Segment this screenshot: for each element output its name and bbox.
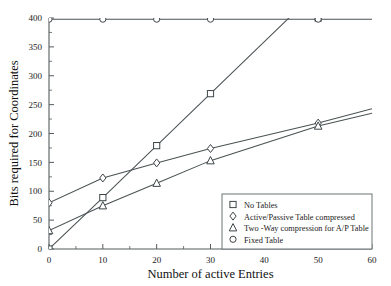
x-tick-label-50: 50: [314, 255, 324, 265]
chart-container: 0501001502002503003504000102030405060Num…: [0, 0, 391, 286]
series-4: [46, 16, 372, 22]
data-point-2-3: [154, 159, 160, 167]
y-tick-label-250: 250: [29, 100, 43, 110]
y-tick-label-400: 400: [29, 13, 43, 23]
legend-label-1: No Tables: [244, 201, 278, 210]
data-point-1-2: [100, 195, 106, 201]
data-point-1-1: [46, 246, 52, 252]
data-point-4-3: [154, 16, 160, 22]
data-point-4-2: [100, 16, 106, 22]
y-tick-label-150: 150: [29, 158, 43, 168]
legend-label-3: Two -Way compression for A/P Table: [244, 224, 369, 233]
x-axis-title: Number of active Entries: [148, 267, 274, 281]
legend-marker-square: [230, 201, 236, 207]
x-tick-label-30: 30: [206, 255, 216, 265]
x-tick-label-0: 0: [47, 255, 52, 265]
data-point-3-3: [153, 179, 161, 186]
legend-label-2: Active/Passive Table compressed: [244, 213, 356, 222]
data-point-4-5: [315, 16, 321, 22]
data-point-1-4: [207, 91, 213, 97]
legend-item-3[interactable]: Two -Way compression for A/P Table: [229, 224, 369, 234]
y-tick-label-50: 50: [33, 215, 43, 225]
y-tick-label-200: 200: [29, 129, 43, 139]
y-tick-label-350: 350: [29, 42, 43, 52]
data-point-1-3: [154, 143, 160, 149]
y-tick-label-100: 100: [29, 186, 43, 196]
line-chart: 0501001502002503003504000102030405060Num…: [0, 0, 391, 286]
x-tick-label-10: 10: [98, 255, 108, 265]
series-2: [46, 109, 372, 207]
data-point-4-4: [207, 16, 213, 22]
data-point-2-2: [100, 174, 106, 182]
data-point-4-1: [46, 16, 52, 22]
legend-item-2[interactable]: Active/Passive Table compressed: [230, 212, 356, 222]
data-point-2-4: [207, 145, 213, 153]
y-axis-title: Bits required for Coordinates: [7, 60, 21, 206]
x-tick-label-20: 20: [152, 255, 162, 265]
x-tick-label-60: 60: [368, 255, 378, 265]
legend-label-4: Fixed Table: [244, 236, 283, 245]
y-tick-label-300: 300: [29, 71, 43, 81]
data-point-3-1: [45, 226, 53, 233]
data-point-3-2: [99, 202, 107, 209]
legend-marker-circle: [230, 236, 236, 242]
y-tick-label-0: 0: [38, 244, 43, 254]
x-tick-label-40: 40: [260, 255, 270, 265]
